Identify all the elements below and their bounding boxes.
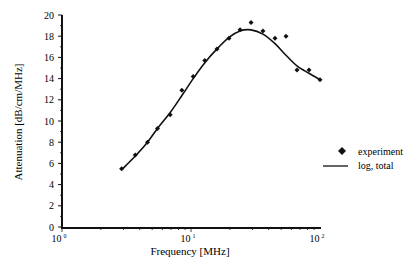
y-tick-label: 18 [44, 31, 54, 42]
x-axis-ticks: 100101102 [52, 228, 325, 244]
data-point-diamond-icon [202, 58, 207, 63]
attenuation-chart: 02468101214161820 100101102 Frequency [M… [0, 0, 418, 273]
x-tick-label: 102 [310, 233, 325, 244]
y-axis-ticks: 02468101214161820 [44, 10, 62, 233]
legend-diamond-icon [338, 147, 346, 155]
experiment-markers [119, 20, 322, 171]
y-tick-label: 16 [44, 52, 54, 63]
y-axis-title: Attenuation [dB/cm/MHz] [12, 63, 24, 180]
legend-label-log-total: log, total [358, 160, 394, 171]
y-tick-label: 14 [44, 73, 54, 84]
y-tick-label: 20 [44, 10, 54, 21]
legend: experiment log, total [323, 146, 403, 171]
data-point-diamond-icon [249, 20, 254, 25]
y-tick-label: 6 [49, 158, 54, 169]
y-tick-label: 2 [49, 200, 54, 211]
y-tick-label: 0 [49, 222, 54, 233]
data-point-diamond-icon [283, 34, 288, 39]
y-tick-label: 12 [44, 94, 54, 105]
y-tick-label: 8 [49, 137, 54, 148]
x-tick-label: 101 [181, 233, 196, 244]
data-point-diamond-icon [273, 36, 278, 41]
legend-label-experiment: experiment [358, 146, 403, 157]
data-point-diamond-icon [168, 112, 173, 117]
data-point-diamond-icon [294, 68, 299, 73]
y-tick-label: 10 [44, 116, 54, 127]
log-total-curve [122, 30, 320, 170]
x-axis-title: Frequency [MHz] [150, 245, 229, 257]
x-tick-label: 100 [52, 233, 67, 244]
y-tick-label: 4 [49, 179, 54, 190]
